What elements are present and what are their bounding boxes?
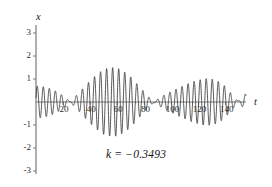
x-axis-label: t <box>254 97 257 108</box>
plot-figure: x t k = −0.3493 321-1-2-3204060801001201… <box>0 0 272 187</box>
x-tick-label: 100 <box>163 105 181 114</box>
k-value-annotation: k = −0.3493 <box>0 148 272 160</box>
y-tick-label: -2 <box>10 143 31 152</box>
y-axis-label: x <box>36 12 41 23</box>
x-tick-label: 60 <box>109 105 127 114</box>
y-tick-label: -1 <box>10 120 31 129</box>
y-tick-label: 1 <box>10 74 31 83</box>
x-tick-label: 80 <box>136 105 154 114</box>
y-tick-label: -3 <box>10 166 31 175</box>
x-tick-label: 140 <box>218 105 236 114</box>
x-tick-label: 20 <box>55 105 73 114</box>
x-tick-label: 40 <box>82 105 100 114</box>
y-tick-label: 2 <box>10 51 31 60</box>
y-tick-label: 3 <box>10 28 31 37</box>
x-tick-label: 120 <box>191 105 209 114</box>
